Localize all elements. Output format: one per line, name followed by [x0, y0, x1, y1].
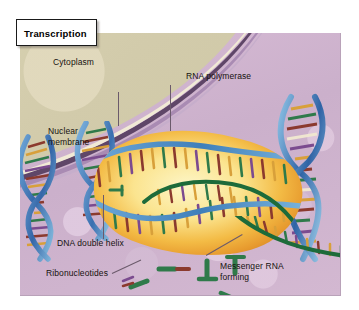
label-dna-double-helix: DNA double helix — [57, 238, 124, 249]
figure-transcription: Cytoplasm Nuclear membrane RNA polymeras… — [0, 0, 359, 310]
label-rna-polymerase: RNA polymerase — [186, 71, 251, 82]
page-title: Transcription — [24, 28, 87, 39]
leader-nuclear-membrane — [118, 92, 119, 126]
ribonucleotide — [123, 277, 147, 287]
label-nuclear-membrane: Nuclear membrane — [48, 126, 89, 147]
label-cytoplasm: Cytoplasm — [53, 57, 94, 68]
ribonucleotide — [199, 261, 216, 279]
leader-dna-double-helix — [103, 195, 104, 239]
ribonucleotide — [221, 293, 235, 296]
title-box: Transcription — [16, 19, 97, 46]
illustration-panel: Cytoplasm Nuclear membrane RNA polymeras… — [20, 33, 341, 296]
label-ribonucleotides: Ribonucleotides — [46, 268, 108, 279]
leader-rna-polymerase — [170, 85, 171, 131]
label-messenger-rna: Messenger RNA forming — [220, 261, 284, 282]
